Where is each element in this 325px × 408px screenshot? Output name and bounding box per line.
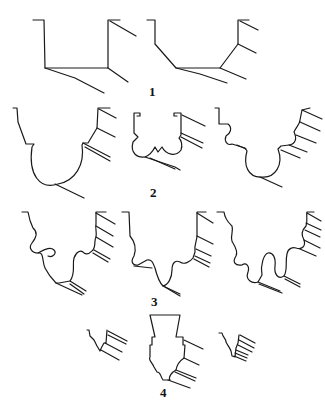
molding-profiles-diagram xyxy=(0,0,325,408)
group-2-profile-double-ovolo xyxy=(132,113,205,170)
group-4-profile-small-left xyxy=(87,330,127,360)
group-2-label: 2 xyxy=(150,186,157,199)
group-4-profile-base-block xyxy=(149,315,203,388)
group-1-label: 1 xyxy=(149,85,156,98)
group-2-profile-cove-fillets xyxy=(215,108,322,187)
group-3-profile-wavy-a xyxy=(22,212,115,295)
group-3-profile-wavy-c xyxy=(217,212,321,293)
group-4-profile-small-right xyxy=(219,333,255,361)
group-4-label: 4 xyxy=(160,386,167,399)
group-1-profile-chamfered xyxy=(147,20,258,83)
group-2-profile-large-cove xyxy=(13,108,116,198)
group-3-profile-wavy-b xyxy=(122,212,213,296)
group-3-label: 3 xyxy=(151,295,158,308)
group-1-profile-rectangular xyxy=(33,20,136,93)
